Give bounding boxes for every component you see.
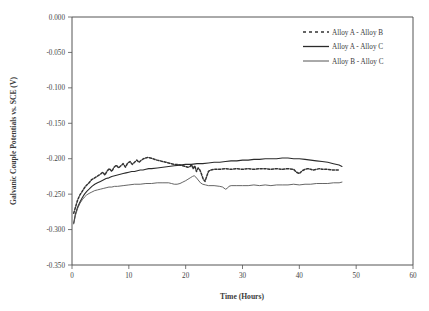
legend-label-3: Alloy B - Alloy C bbox=[332, 58, 384, 66]
y-tick-label: -0.150 bbox=[46, 120, 65, 128]
x-tick-label: 20 bbox=[182, 272, 190, 280]
series-line-3 bbox=[74, 176, 342, 224]
x-tick-label: 50 bbox=[353, 272, 361, 280]
x-axis-title: Time (Hours) bbox=[220, 292, 264, 301]
y-tick-label: -0.200 bbox=[46, 155, 65, 163]
chart-figure: 0.000-0.050-0.100-0.150-0.200-0.250-0.30… bbox=[0, 0, 429, 311]
x-tick-group: 0102030405060 bbox=[70, 265, 417, 280]
y-tick-group: 0.000-0.050-0.100-0.150-0.200-0.250-0.30… bbox=[46, 14, 72, 270]
legend-label-1: Alloy A - Alloy B bbox=[332, 29, 383, 37]
x-tick-label: 10 bbox=[125, 272, 133, 280]
y-tick-label: -0.350 bbox=[46, 262, 65, 270]
y-tick-label: 0.000 bbox=[49, 14, 66, 22]
data-series-group bbox=[74, 157, 342, 224]
y-axis-title: Galvanic Couple Potentials vs. SCE (V) bbox=[9, 77, 18, 205]
x-tick-label: 40 bbox=[296, 272, 304, 280]
x-tick-label: 30 bbox=[239, 272, 247, 280]
x-tick-label: 60 bbox=[409, 272, 417, 280]
galvanic-potential-line-chart: 0.000-0.050-0.100-0.150-0.200-0.250-0.30… bbox=[0, 0, 429, 311]
legend-label-2: Alloy A - Alloy C bbox=[332, 43, 383, 51]
y-tick-label: -0.050 bbox=[46, 49, 65, 57]
plot-axes bbox=[72, 17, 413, 265]
x-tick-label: 0 bbox=[70, 272, 74, 280]
chart-legend: Alloy A - Alloy BAlloy A - Alloy CAlloy … bbox=[303, 29, 384, 66]
y-tick-label: -0.300 bbox=[46, 226, 65, 234]
y-tick-label: -0.250 bbox=[46, 191, 65, 199]
y-tick-label: -0.100 bbox=[46, 84, 65, 92]
